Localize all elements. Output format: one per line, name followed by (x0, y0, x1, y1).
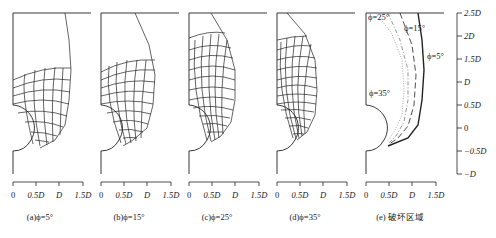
svg-text:0: 0 (187, 190, 191, 200)
caption-b: (b)ϕ=15° (113, 212, 144, 222)
svg-text:2D: 2D (464, 31, 475, 41)
svg-text:D: D (55, 190, 63, 200)
panel-d (277, 13, 355, 174)
svg-text:0: 0 (275, 190, 279, 200)
svg-text:−0.5D: −0.5D (464, 146, 487, 156)
y-axis-labels: 2.5D 2D 1.5D D 0.5D 0 −0.5D −D (463, 8, 487, 179)
panel-b (101, 13, 179, 174)
svg-text:0.5D: 0.5D (116, 190, 134, 200)
panel-a (13, 13, 91, 174)
svg-text:0: 0 (464, 123, 468, 133)
x-axes (13, 182, 436, 186)
figure: ϕ=25° ϕ=15° ϕ=5° ϕ=35° 2.5D 2D 1.5D D 0.… (0, 0, 496, 238)
svg-text:1.5D: 1.5D (75, 190, 93, 200)
svg-text:1.5D: 1.5D (339, 190, 357, 200)
svg-text:0.5D: 0.5D (381, 190, 399, 200)
svg-text:D: D (319, 190, 327, 200)
svg-text:0: 0 (364, 190, 368, 200)
svg-text:−D: −D (464, 169, 477, 179)
label-phi-15: ϕ=15° (404, 23, 425, 33)
panel-e: ϕ=25° ϕ=15° ϕ=5° ϕ=35° (366, 12, 444, 174)
svg-text:2.5D: 2.5D (464, 8, 482, 18)
svg-text:1.5D: 1.5D (163, 190, 181, 200)
captions: (a)ϕ=5° (b)ϕ=15° (c)ϕ=25° (d)ϕ=35° (e) 破… (27, 212, 424, 222)
x-axis-labels: 0 0.5D D 1.5D 0 0.5D D 1.5D 0 0.5D D 1.5… (11, 190, 445, 200)
svg-text:D: D (143, 190, 151, 200)
caption-a: (a)ϕ=5° (27, 212, 53, 222)
svg-text:0: 0 (99, 190, 103, 200)
label-phi-5: ϕ=5° (427, 51, 444, 61)
label-phi-25: ϕ=25° (368, 12, 389, 22)
caption-c: (c)ϕ=25° (202, 212, 233, 222)
label-phi-35: ϕ=35° (369, 88, 390, 98)
svg-text:1.5D: 1.5D (428, 190, 446, 200)
svg-text:D: D (231, 190, 239, 200)
svg-text:0.5D: 0.5D (292, 190, 310, 200)
svg-text:1.5D: 1.5D (251, 190, 269, 200)
caption-d: (d)ϕ=35° (289, 212, 320, 222)
svg-text:0.5D: 0.5D (28, 190, 46, 200)
curve-phi-35 (376, 13, 404, 142)
svg-text:0: 0 (11, 190, 15, 200)
svg-text:1.5D: 1.5D (464, 54, 482, 64)
y-axis (457, 13, 462, 174)
svg-text:0.5D: 0.5D (204, 190, 222, 200)
caption-e: (e) 破坏区域 (376, 212, 424, 222)
svg-text:D: D (463, 77, 471, 87)
svg-text:D: D (408, 190, 416, 200)
panel-c (189, 13, 267, 174)
svg-text:0.5D: 0.5D (464, 100, 482, 110)
